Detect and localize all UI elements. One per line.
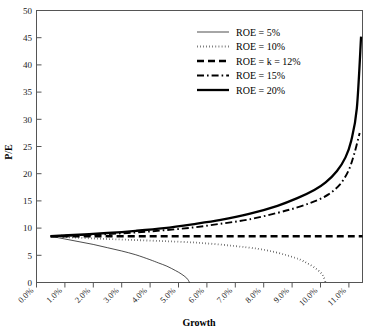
- x-tick-label: 8.0%: [243, 285, 263, 305]
- x-tick-group-3: 3.0%: [101, 283, 122, 305]
- y-tick-label: 45: [23, 33, 33, 43]
- x-tick-group-2: 2.0%: [73, 283, 94, 305]
- legend-label: ROE = 5%: [236, 27, 280, 38]
- plot-frame: [37, 11, 363, 283]
- x-tick-group-8: 8.0%: [243, 283, 264, 305]
- chart-canvas: 0 5 10 15 20 25: [0, 0, 376, 331]
- y-tick-group-8: 40: [23, 60, 42, 70]
- x-tick-label: 4.0%: [129, 285, 149, 305]
- y-tick-group-0: 0: [28, 278, 42, 288]
- y-tick-group-9: 45: [23, 33, 42, 43]
- legend-label: ROE = k = 12%: [236, 56, 301, 67]
- y-tick-group-3: 15: [23, 196, 42, 206]
- x-tick-group-10: 10.0%: [297, 283, 321, 308]
- legend-entry-4: ROE = 20%: [197, 85, 285, 96]
- x-tick-label: 5.0%: [158, 285, 178, 305]
- y-tick-label: 5: [28, 251, 33, 261]
- y-tick-label: 30: [23, 115, 33, 125]
- y-tick-group-4: 20: [23, 169, 42, 179]
- x-tick-group-9: 9.0%: [271, 283, 292, 305]
- legend-entry-0: ROE = 5%: [197, 27, 280, 38]
- legend-entry-2: ROE = k = 12%: [197, 56, 301, 67]
- x-tick-label: 11.0%: [325, 285, 347, 307]
- x-tick-group-7: 7.0%: [215, 283, 236, 305]
- y-tick-group-7: 35: [23, 87, 42, 97]
- x-tick-label: 2.0%: [73, 285, 93, 305]
- x-tick-label: 7.0%: [215, 285, 235, 305]
- y-tick-label: 25: [23, 142, 33, 152]
- y-tick-group-10: 50: [23, 6, 42, 16]
- y-tick-group-5: 25: [23, 142, 42, 152]
- x-tick-label: 9.0%: [271, 285, 291, 305]
- y-tick-group-2: 10: [23, 223, 42, 233]
- x-tick-group-11: 11.0%: [325, 283, 348, 308]
- y-tick-label: 15: [23, 196, 33, 206]
- legend-entry-1: ROE = 10%: [197, 41, 285, 52]
- x-tick-label: 1.0%: [44, 285, 64, 305]
- y-tick-label: 40: [23, 60, 33, 70]
- x-tick-group-1: 1.0%: [44, 283, 65, 305]
- series-line-roe-20: [51, 37, 361, 237]
- chart-legend: ROE = 5% ROE = 10% ROE = k = 12% ROE = 1…: [197, 27, 301, 96]
- x-tick-group-0: 0.0%: [16, 283, 37, 305]
- x-axis-title: Growth: [182, 317, 216, 328]
- series-layer: [51, 37, 363, 283]
- series-line-roe-10: [51, 236, 326, 282]
- y-tick-group-1: 5: [28, 251, 42, 261]
- x-tick-group-5: 5.0%: [158, 283, 179, 305]
- y-tick-label: 20: [23, 169, 33, 179]
- legend-label: ROE = 10%: [236, 41, 285, 52]
- series-line-roe-15: [51, 133, 360, 236]
- legend-entry-3: ROE = 15%: [197, 70, 285, 81]
- x-axis: 0.0% 1.0% 2.0% 3.0% 4.0% 5.0%: [16, 283, 349, 308]
- y-axis-title: P/E: [3, 144, 14, 160]
- x-tick-group-6: 6.0%: [186, 283, 207, 305]
- x-tick-group-4: 4.0%: [129, 283, 150, 305]
- series-line-roe-5: [51, 236, 190, 282]
- x-tick-label: 10.0%: [297, 285, 320, 308]
- x-tick-label: 6.0%: [186, 285, 206, 305]
- legend-label: ROE = 20%: [236, 85, 285, 96]
- y-tick-label: 10: [23, 223, 33, 233]
- y-axis: 0 5 10 15 20 25: [23, 6, 42, 288]
- x-tick-label: 0.0%: [16, 285, 36, 305]
- y-tick-label: 35: [23, 87, 33, 97]
- x-tick-label: 3.0%: [101, 285, 121, 305]
- y-tick-group-6: 30: [23, 115, 42, 125]
- y-tick-label: 50: [23, 6, 33, 16]
- pe-growth-chart: 0 5 10 15 20 25: [0, 0, 376, 331]
- legend-label: ROE = 15%: [236, 70, 285, 81]
